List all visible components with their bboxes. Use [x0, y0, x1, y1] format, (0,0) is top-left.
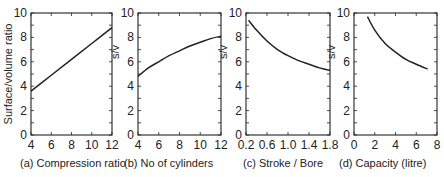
x-tick-label: 8	[68, 138, 75, 152]
y-tick-label: 8	[235, 30, 242, 44]
y-tick-label: 4	[343, 79, 350, 93]
chart-panel-c: 02468100.20.61.01.41.8s/v	[217, 6, 339, 152]
y-tick-label: 2	[343, 104, 350, 118]
plot-frame	[138, 13, 221, 135]
y-tick-label: 2	[235, 104, 242, 118]
x-tick-label: 0.2	[238, 138, 255, 152]
x-tick-label: 0.6	[259, 138, 276, 152]
chart-panel-b: 02468104681012s/v	[109, 6, 228, 152]
caption-c: (c) Stroke / Bore	[243, 157, 323, 169]
x-tick-label: 6	[155, 138, 162, 152]
y-tick-label: 2	[127, 104, 134, 118]
y-tick-label: 6	[235, 55, 242, 69]
y-tick-label: 6	[20, 55, 27, 69]
y-axis-label: s/v	[325, 44, 337, 59]
caption-a: (a) Compression ratio	[20, 157, 126, 169]
figure-canvas: 02468104681012Surface/volume ratio024681…	[0, 0, 444, 177]
y-tick-label: 10	[337, 6, 351, 20]
x-tick-label: 12	[214, 138, 228, 152]
data-curve	[249, 20, 330, 70]
x-tick-label: 4	[392, 138, 399, 152]
y-axis-label: s/v	[217, 44, 229, 59]
x-tick-label: 4	[28, 138, 35, 152]
y-tick-label: 0	[127, 128, 134, 142]
data-curve	[31, 28, 112, 91]
y-tick-label: 10	[14, 6, 28, 20]
plot-frame	[246, 13, 330, 135]
y-tick-label: 6	[343, 55, 350, 69]
y-tick-label: 8	[127, 30, 134, 44]
y-tick-label: 2	[20, 104, 27, 118]
y-tick-label: 0	[20, 128, 27, 142]
y-tick-label: 4	[20, 79, 27, 93]
x-tick-label: 4	[135, 138, 142, 152]
y-tick-label: 6	[127, 55, 134, 69]
x-tick-label: 1.4	[301, 138, 318, 152]
x-tick-label: 1.8	[322, 138, 339, 152]
y-axis-label: s/v	[109, 44, 121, 59]
plot-frame	[354, 13, 437, 135]
x-tick-label: 6	[413, 138, 420, 152]
chart-panel-a: 02468104681012Surface/volume ratio	[2, 6, 119, 152]
x-tick-label: 6	[48, 138, 55, 152]
y-tick-label: 4	[235, 79, 242, 93]
x-tick-label: 8	[176, 138, 183, 152]
x-tick-label: 2	[371, 138, 378, 152]
y-axis-label: Surface/volume ratio	[2, 24, 14, 125]
caption-b: (b) No of cylinders	[124, 157, 213, 169]
x-tick-label: 10	[85, 138, 99, 152]
plot-frame	[31, 13, 112, 135]
x-tick-label: 8	[434, 138, 441, 152]
x-tick-label: 10	[194, 138, 208, 152]
x-tick-label: 12	[105, 138, 119, 152]
data-curve	[138, 36, 221, 76]
y-tick-label: 4	[127, 79, 134, 93]
y-tick-label: 10	[121, 6, 135, 20]
data-curve	[367, 17, 427, 69]
x-tick-label: 1.0	[280, 138, 297, 152]
y-tick-label: 10	[229, 6, 243, 20]
y-tick-label: 8	[20, 30, 27, 44]
x-tick-label: 0	[351, 138, 358, 152]
y-tick-label: 8	[343, 30, 350, 44]
y-tick-label: 0	[343, 128, 350, 142]
caption-d: (d) Capacity (litre)	[339, 157, 426, 169]
chart-panel-d: 024681002468s/v	[325, 6, 441, 152]
